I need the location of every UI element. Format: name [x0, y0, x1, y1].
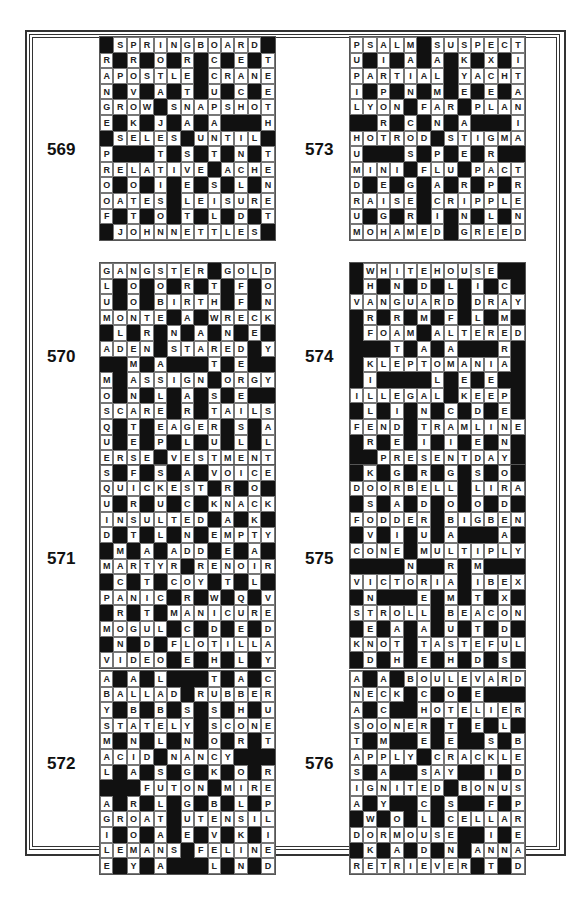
letter-cell: C [113, 749, 126, 765]
letter-cell: M [221, 527, 234, 543]
black-square [498, 733, 511, 749]
letter-cell: T [208, 637, 221, 653]
letter-cell: E [458, 671, 471, 687]
black-square [208, 372, 221, 388]
letter-cell: A [458, 357, 471, 373]
black-square [431, 279, 444, 295]
letter-cell: O [100, 388, 113, 404]
letter-cell: A [363, 294, 376, 310]
letter-cell: T [511, 37, 524, 53]
letter-cell: M [417, 543, 430, 559]
letter-cell: T [458, 637, 471, 653]
black-square [350, 435, 363, 451]
letter-cell: T [127, 419, 140, 435]
black-square [444, 146, 457, 162]
black-square [181, 131, 194, 147]
letter-cell: I [100, 512, 113, 528]
letter-cell: G [100, 99, 113, 115]
letter-cell: E [417, 590, 430, 606]
black-square [390, 671, 403, 687]
letter-cell: D [417, 131, 430, 147]
black-square [167, 465, 180, 481]
letter-cell: E [458, 372, 471, 388]
black-square [458, 162, 471, 178]
letter-cell: A [350, 749, 363, 765]
letter-cell: D [113, 341, 126, 357]
letter-cell: C [444, 403, 457, 419]
letter-cell: S [511, 780, 524, 796]
letter-cell: E [458, 146, 471, 162]
black-square [377, 559, 390, 575]
black-square [444, 780, 457, 796]
letter-cell: L [113, 325, 126, 341]
letter-cell: A [140, 843, 153, 859]
black-square [350, 590, 363, 606]
letter-cell: U [154, 496, 167, 512]
letter-cell: A [113, 687, 126, 703]
letter-cell: G [458, 224, 471, 240]
letter-cell: T [181, 84, 194, 100]
letter-cell: A [444, 419, 457, 435]
letter-cell: B [404, 481, 417, 497]
letter-cell: H [248, 162, 261, 178]
letter-cell: E [221, 543, 234, 559]
black-square [154, 749, 167, 765]
letter-cell: O [234, 718, 247, 734]
letter-cell: S [167, 341, 180, 357]
black-square [377, 590, 390, 606]
black-square [417, 559, 430, 575]
black-square [181, 671, 194, 687]
black-square [248, 294, 261, 310]
black-square [404, 435, 417, 451]
letter-cell: V [100, 652, 113, 668]
letter-cell: I [484, 419, 497, 435]
black-square [484, 621, 497, 637]
letter-cell: Y [100, 702, 113, 718]
letter-cell: D [511, 671, 524, 687]
letter-cell: Y [404, 749, 417, 765]
letter-cell: T [471, 590, 484, 606]
letter-cell: S [444, 796, 457, 812]
black-square [458, 310, 471, 326]
letter-cell: A [248, 543, 261, 559]
letter-cell: T [140, 574, 153, 590]
letter-cell: A [100, 68, 113, 84]
letter-cell: K [363, 843, 376, 859]
black-square [511, 372, 524, 388]
black-square [404, 310, 417, 326]
black-square [390, 590, 403, 606]
letter-cell: F [100, 209, 113, 225]
letter-cell: A [167, 419, 180, 435]
black-square [221, 621, 234, 637]
letter-cell: L [100, 843, 113, 859]
letter-cell: A [431, 53, 444, 69]
letter-cell: O [221, 465, 234, 481]
letter-cell: T [208, 357, 221, 373]
black-square [261, 543, 274, 559]
letter-cell: I [261, 827, 274, 843]
letter-cell: L [100, 765, 113, 781]
letter-cell: O [404, 131, 417, 147]
letter-cell: K [458, 388, 471, 404]
black-square [350, 843, 363, 859]
black-square [431, 843, 444, 859]
letter-cell: O [154, 652, 167, 668]
black-square [154, 543, 167, 559]
letter-cell: E [471, 718, 484, 734]
black-square [471, 146, 484, 162]
letter-cell: Y [261, 372, 274, 388]
black-square [167, 733, 180, 749]
letter-cell: M [444, 357, 457, 373]
black-square [248, 419, 261, 435]
letter-cell: F [350, 512, 363, 528]
letter-cell: P [377, 749, 390, 765]
black-square [377, 310, 390, 326]
black-square [208, 263, 221, 279]
letter-cell: E [417, 780, 430, 796]
black-square [140, 419, 153, 435]
letter-cell: E [100, 858, 113, 874]
black-square [471, 341, 484, 357]
letter-cell: T [140, 310, 153, 326]
letter-cell: U [417, 827, 430, 843]
letter-cell: R [363, 310, 376, 326]
